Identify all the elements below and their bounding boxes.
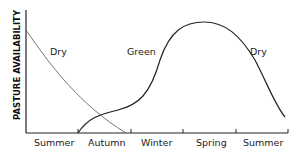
dry-curve-left (26, 30, 126, 133)
green-label: Green (127, 46, 156, 57)
green-curve (78, 22, 285, 133)
x-label-summer-1: Summer (34, 137, 74, 148)
dry-label-right: Dry (250, 46, 267, 57)
pasture-chart: PASTURE AVAILABILITY Dry Green Dry Summe… (0, 0, 301, 157)
x-label-winter: Winter (141, 137, 172, 148)
dry-label-left: Dry (50, 46, 67, 57)
x-label-autumn: Autumn (88, 137, 126, 148)
y-axis-label: PASTURE AVAILABILITY (12, 9, 22, 120)
x-label-spring: Spring (196, 137, 227, 148)
x-label-summer-2: Summer (243, 137, 283, 148)
